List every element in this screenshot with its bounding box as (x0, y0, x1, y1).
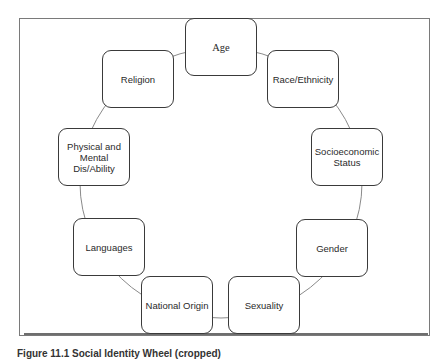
node-socioeconomic-status: Socioeconomic Status (311, 128, 383, 186)
node-gender: Gender (296, 219, 368, 277)
node-label: Sexuality (245, 300, 284, 311)
node-race-ethnicity: Race/Ethnicity (267, 50, 339, 108)
node-age: Age (185, 18, 257, 76)
figure-caption: Figure 11.1 Social Identity Wheel (cropp… (17, 348, 221, 359)
node-label: National Origin (146, 300, 209, 311)
node-label: Race/Ethnicity (273, 74, 334, 85)
node-label: Gender (316, 243, 348, 254)
node-label: Age (212, 42, 230, 53)
node-sexuality: Sexuality (228, 276, 300, 334)
node-national-origin: National Origin (141, 276, 213, 334)
node-label: Physical and Mental Dis/Ability (65, 141, 123, 174)
node-languages: Languages (73, 218, 145, 276)
node-religion: Religion (102, 50, 174, 108)
node-label: Socioeconomic Status (314, 146, 380, 168)
node-label: Languages (85, 242, 132, 253)
node-label: Religion (121, 74, 155, 85)
node-physical-mental-disability: Physical and Mental Dis/Ability (58, 128, 130, 186)
